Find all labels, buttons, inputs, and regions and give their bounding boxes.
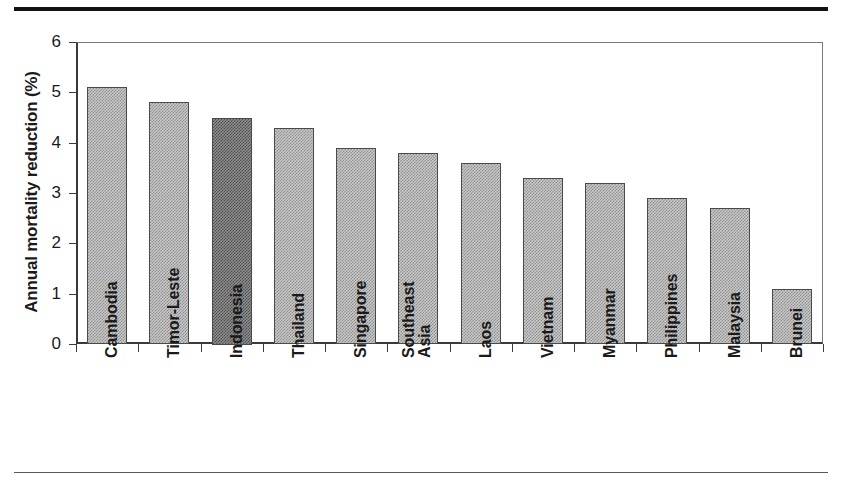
x-category-label: Singapore	[353, 281, 369, 358]
x-tick-mark	[76, 344, 77, 352]
y-tick-mark	[69, 344, 76, 345]
x-tick-mark	[450, 344, 451, 352]
x-tick-mark	[263, 344, 264, 352]
y-tick-label: 3	[35, 184, 61, 201]
y-tick-label: 0	[35, 335, 61, 352]
y-tick-mark	[69, 243, 76, 244]
x-category-label: Laos	[478, 321, 494, 358]
y-tick-mark	[69, 42, 76, 43]
x-category-label: Timor-Leste	[166, 268, 182, 358]
x-category-label: Vietnam	[540, 297, 556, 358]
x-tick-mark	[761, 344, 762, 352]
x-category-label: Brunei	[789, 308, 805, 358]
x-tick-mark	[636, 344, 637, 352]
x-tick-mark	[512, 344, 513, 352]
x-category-label: Southeast Asia	[401, 282, 434, 358]
x-category-label: Myanmar	[602, 288, 618, 358]
x-tick-mark	[387, 344, 388, 352]
y-tick-label: 4	[35, 134, 61, 151]
x-category-label: Cambodia	[104, 281, 120, 358]
bottom-page-rule	[14, 472, 828, 473]
x-category-label: Indonesia	[229, 284, 245, 358]
y-tick-label: 5	[35, 83, 61, 100]
x-tick-mark	[574, 344, 575, 352]
x-category-label: Thailand	[291, 293, 307, 358]
y-tick-mark	[69, 92, 76, 93]
x-tick-mark	[201, 344, 202, 352]
y-tick-label: 6	[35, 33, 61, 50]
y-tick-label: 2	[35, 234, 61, 251]
bar	[461, 163, 501, 344]
x-tick-mark	[823, 344, 824, 352]
x-tick-mark	[699, 344, 700, 352]
x-tick-mark	[325, 344, 326, 352]
x-category-label: Philippines	[664, 274, 680, 358]
x-category-label: Malaysia	[727, 292, 743, 358]
x-tick-mark	[138, 344, 139, 352]
y-tick-mark	[69, 193, 76, 194]
y-tick-label: 1	[35, 285, 61, 302]
y-tick-mark	[69, 294, 76, 295]
y-tick-mark	[69, 143, 76, 144]
bar-chart-figure: Annual mortality reduction (%) 0123456 C…	[0, 0, 842, 479]
